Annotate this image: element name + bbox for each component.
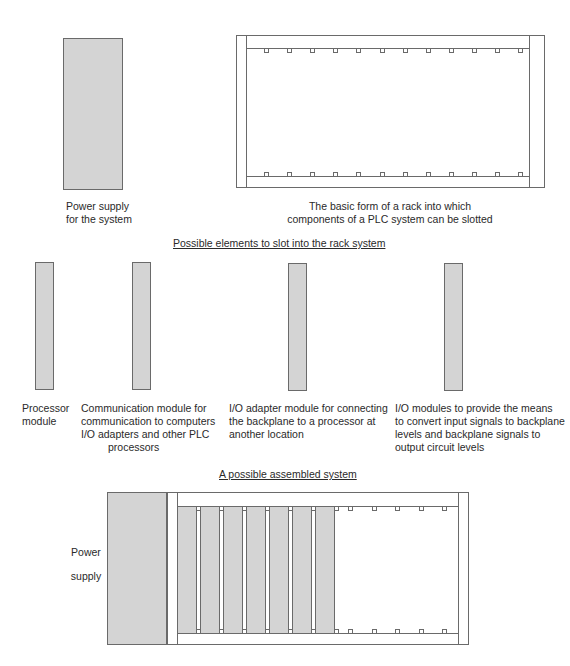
empty-slot-notch [396, 630, 400, 634]
empty-slot-notch [420, 630, 424, 634]
empty-slot-notch [349, 507, 353, 511]
rack-slot-notch [197, 507, 201, 511]
assembled-module [270, 507, 289, 634]
io-modules-block [444, 263, 463, 391]
rack-slot-notch [266, 507, 270, 511]
rack-slot-notch [404, 49, 408, 53]
rack-slot-notch [289, 630, 293, 634]
rack-slot-notch [335, 507, 339, 511]
processor-module-block [35, 262, 54, 390]
communication-module-caption-last: processors [108, 441, 159, 454]
rack-slot-notch [450, 173, 454, 177]
rack-slot-notch [357, 49, 361, 53]
assembled-module [201, 507, 220, 634]
assembled-power-supply-label: Power supply [66, 546, 106, 582]
assembled-module [247, 507, 266, 634]
rack-slot-notch [496, 173, 500, 177]
rack-slot-notch [427, 173, 431, 177]
rack-slot-notch [381, 173, 385, 177]
elements-heading: Possible elements to slot into the rack … [173, 237, 385, 249]
rack-slot-notch [197, 630, 201, 634]
rack-slot-notch [519, 49, 523, 53]
communication-module-block [132, 262, 151, 390]
rack-slot-notch [473, 49, 477, 53]
rack-slot-notch [381, 49, 385, 53]
rack-slot-notch [220, 630, 224, 634]
rack-slot-notch [288, 49, 292, 53]
io-adapter-module-block [288, 263, 307, 391]
empty-slot-notch [373, 507, 377, 511]
rack-slot-notch [243, 507, 247, 511]
rack-slot-notch [404, 173, 408, 177]
rack-slot-notch [334, 49, 338, 53]
empty-slot-notch [443, 507, 447, 511]
empty-slot-notch [349, 630, 353, 634]
rack-slot-notch [334, 173, 338, 177]
processor-module-caption: Processor module [22, 402, 69, 428]
rack-slot-notch [450, 49, 454, 53]
rack-slot-notch [220, 507, 224, 511]
rack-slot-notch [427, 49, 431, 53]
empty-slot-notch [373, 630, 377, 634]
power-supply-block [63, 38, 123, 190]
rack-slot-notch [265, 49, 269, 53]
empty-slot-notch [396, 507, 400, 511]
assembled-power-supply-block [107, 492, 167, 645]
rack-slot-notch [265, 173, 269, 177]
empty-slot-notch [420, 507, 424, 511]
rack-slot-notch [357, 173, 361, 177]
rack-slot-notch [311, 49, 315, 53]
rack-slot-notch [312, 507, 316, 511]
rack-slot-notch [312, 630, 316, 634]
assembled-heading: A possible assembled system [219, 468, 357, 480]
rack-slot-notch [266, 630, 270, 634]
rack-slot-notch [288, 173, 292, 177]
rack-slot-notch [496, 49, 500, 53]
rack-slot-notch [289, 507, 293, 511]
assembled-module [316, 507, 335, 634]
rack-caption: The basic form of a rack into which comp… [270, 200, 510, 226]
io-modules-caption: I/O modules to provide the means to conv… [395, 402, 565, 454]
assembled-module [293, 507, 312, 634]
io-adapter-module-caption: I/O adapter module for connecting the ba… [229, 402, 388, 441]
power-supply-caption: Power supply for the system [66, 200, 132, 226]
rack-slot-notch [473, 173, 477, 177]
rack-slot-notch [243, 630, 247, 634]
assembled-module [178, 507, 197, 634]
rack-slot-notch [519, 173, 523, 177]
assembled-module [224, 507, 243, 634]
empty-slot-notch [443, 630, 447, 634]
rack-slot-notch [335, 630, 339, 634]
communication-module-caption: Communication module for communication t… [81, 402, 215, 441]
rack-slot-notch [311, 173, 315, 177]
